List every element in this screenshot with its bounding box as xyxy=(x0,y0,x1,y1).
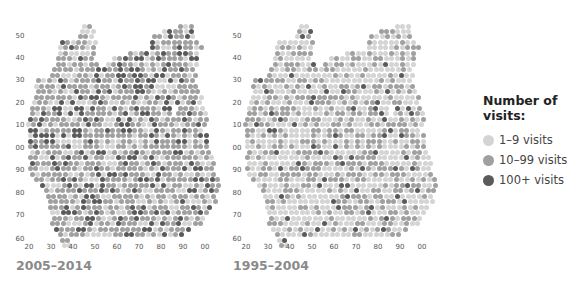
map-dot xyxy=(211,172,216,177)
map-dot xyxy=(388,128,393,133)
map-dot xyxy=(70,227,75,232)
map-dot xyxy=(274,111,279,116)
map-dot xyxy=(317,177,322,182)
map-dot xyxy=(351,106,356,111)
map-dot xyxy=(143,188,148,193)
map-dot xyxy=(171,73,176,78)
map-dot xyxy=(128,183,133,188)
map-dot xyxy=(252,161,257,166)
map-dot xyxy=(384,161,389,166)
map-dot xyxy=(287,227,292,232)
map-dot xyxy=(160,139,165,144)
map-dot xyxy=(292,122,297,127)
map-dot xyxy=(349,144,354,149)
map-dot xyxy=(284,56,289,61)
map-dot xyxy=(352,232,357,237)
map-dot xyxy=(393,166,398,171)
map-dot xyxy=(136,122,141,127)
map-dot xyxy=(417,106,422,111)
map-dot xyxy=(357,216,362,221)
map-dot xyxy=(178,172,183,177)
map-dot xyxy=(421,133,426,138)
map-dot xyxy=(402,122,407,127)
map-dot xyxy=(48,100,53,105)
map-dot xyxy=(65,238,70,243)
map-dot xyxy=(402,34,407,39)
map-dot xyxy=(306,62,311,67)
map-dot xyxy=(200,194,205,199)
map-dot xyxy=(72,155,77,160)
map-dot xyxy=(61,177,66,182)
map-dot xyxy=(124,232,129,237)
map-dot xyxy=(262,183,267,188)
map-dot xyxy=(281,205,286,210)
map-dot xyxy=(173,216,178,221)
map-dot xyxy=(404,139,409,144)
map-dot xyxy=(202,122,207,127)
map-dot xyxy=(58,45,63,50)
map-dot xyxy=(76,100,81,105)
map-dot xyxy=(187,166,192,171)
map-dot xyxy=(160,84,165,89)
map-dot xyxy=(173,172,178,177)
map-dot xyxy=(385,89,390,94)
map-dot xyxy=(113,67,118,72)
map-dot xyxy=(60,40,65,45)
map-dot xyxy=(314,205,319,210)
map-dot xyxy=(121,155,126,160)
map-dot xyxy=(370,227,375,232)
map-dot xyxy=(28,128,33,133)
map-dot xyxy=(129,232,134,237)
map-dot xyxy=(304,24,309,29)
map-dot xyxy=(91,51,96,56)
map-dot xyxy=(333,84,338,89)
map-dot xyxy=(297,51,302,56)
map-dot xyxy=(83,155,88,160)
map-dot xyxy=(166,177,171,182)
map-dot xyxy=(322,133,327,138)
map-dot xyxy=(74,106,79,111)
map-dot xyxy=(121,73,126,78)
map-dot xyxy=(377,84,382,89)
map-dot xyxy=(77,73,82,78)
map-dot xyxy=(411,40,416,45)
map-dot xyxy=(373,161,378,166)
map-dot xyxy=(45,177,50,182)
map-dot xyxy=(88,221,93,226)
x-tick-label: 40 xyxy=(69,243,78,251)
map-dot xyxy=(110,210,115,215)
map-dot xyxy=(267,128,272,133)
map-dot xyxy=(325,122,330,127)
map-dot xyxy=(401,161,406,166)
map-dot xyxy=(37,100,42,105)
map-dot xyxy=(378,194,383,199)
map-dot xyxy=(56,177,61,182)
map-dot xyxy=(55,139,60,144)
map-dot xyxy=(96,67,101,72)
map-dot xyxy=(324,216,329,221)
map-dot xyxy=(74,89,79,94)
map-dot xyxy=(388,133,393,138)
map-dot xyxy=(389,194,394,199)
legend-title: Number of visits: xyxy=(483,93,587,123)
map-dot xyxy=(92,199,97,204)
map-dot xyxy=(401,67,406,72)
map-dot xyxy=(174,199,179,204)
map-dot xyxy=(173,29,178,34)
map-dot xyxy=(136,205,141,210)
map-dot xyxy=(105,133,110,138)
map-dot xyxy=(402,199,407,204)
map-dot xyxy=(406,194,411,199)
map-dot xyxy=(338,188,343,193)
map-dot xyxy=(199,183,204,188)
map-dot xyxy=(41,106,46,111)
map-dot xyxy=(390,67,395,72)
map-dot xyxy=(133,51,138,56)
map-dot xyxy=(415,139,420,144)
map-dot xyxy=(278,210,283,215)
map-dot xyxy=(182,210,187,215)
map-dot xyxy=(426,166,431,171)
map-dot xyxy=(187,210,192,215)
map-dot xyxy=(272,210,277,215)
map-dot xyxy=(67,62,72,67)
